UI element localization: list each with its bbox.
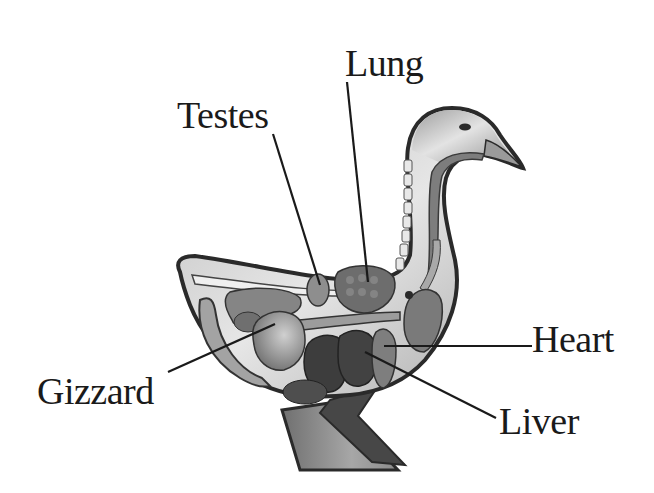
label-liver: Liver bbox=[499, 402, 579, 440]
label-gizzard: Gizzard bbox=[37, 372, 154, 410]
syrinx bbox=[405, 291, 413, 299]
label-lung: Lung bbox=[345, 44, 423, 82]
label-heart: Heart bbox=[532, 320, 614, 358]
leader-line-lung bbox=[347, 82, 368, 282]
gizzard-organ bbox=[253, 312, 305, 371]
bird-anatomy-diagram: Lung Testes Heart Gizzard Liver bbox=[0, 0, 654, 493]
leader-line-testes bbox=[273, 134, 320, 285]
label-testes: Testes bbox=[177, 96, 268, 134]
eye-icon bbox=[459, 124, 471, 131]
lower-organ bbox=[283, 380, 327, 404]
